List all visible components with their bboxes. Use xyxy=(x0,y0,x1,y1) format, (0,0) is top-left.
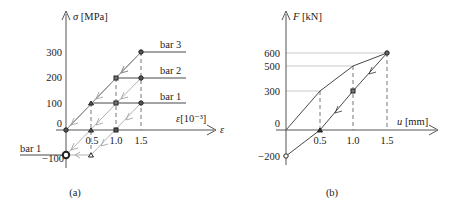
label-bar2: bar 2 xyxy=(160,65,181,76)
marker-circle xyxy=(139,101,143,105)
panel-b: F [kN] u [mm] 600 500 300 0 −200 0.5 1.0… xyxy=(258,11,438,199)
marker-circle-open xyxy=(284,154,288,158)
marker-origin xyxy=(64,128,68,132)
x-tick-0.5: 0.5 xyxy=(85,135,98,146)
y-tick-0: 0 xyxy=(57,118,62,129)
marker-square xyxy=(351,89,355,93)
y-tick-600: 600 xyxy=(264,48,280,59)
label-bar3: bar 3 xyxy=(160,39,181,50)
epsilon-axis-end-label: ε xyxy=(220,124,225,135)
marker-square xyxy=(114,128,118,132)
bar3-unload xyxy=(66,52,141,130)
y-tick-300: 300 xyxy=(264,86,280,97)
marker-circle xyxy=(385,51,389,55)
marker-circle xyxy=(139,76,143,80)
marker-circle-large xyxy=(63,152,69,158)
y-tick-500: 500 xyxy=(264,61,280,72)
caption-b: (b) xyxy=(326,187,339,199)
y-tick-200: 200 xyxy=(46,72,62,83)
x-tick-1.5: 1.5 xyxy=(380,135,393,146)
y-tick-0: 0 xyxy=(275,118,280,129)
bar2-unload xyxy=(66,78,141,155)
y-tick-100: 100 xyxy=(46,98,62,109)
markers-b xyxy=(284,51,389,158)
u-axis-label: u [mm] xyxy=(397,116,428,127)
x-tick-1.0: 1.0 xyxy=(109,135,122,146)
y-tick-300: 300 xyxy=(46,47,62,58)
sigma-axis-label: σ [MPa] xyxy=(73,11,108,22)
x-tick-0.5: 0.5 xyxy=(313,135,326,146)
panel-a: σ [MPa] ε[10⁻³] ε 300 200 100 0 −100 0.5… xyxy=(20,11,225,199)
x-tick-1.0: 1.0 xyxy=(346,135,359,146)
x-tick-1.5: 1.5 xyxy=(134,135,147,146)
y-tick-minus-200: −200 xyxy=(258,151,280,162)
loading-curve xyxy=(286,53,387,130)
marker-square xyxy=(114,76,118,80)
f-axis-label: F [kN] xyxy=(292,11,322,22)
label-bar1: bar 1 xyxy=(160,91,181,102)
unload-arrow-icons xyxy=(71,66,133,158)
label-bar1-compression: bar 1 xyxy=(20,143,41,154)
marker-square xyxy=(114,101,118,105)
marker-circle xyxy=(139,50,143,54)
marker-triangle xyxy=(89,128,94,132)
epsilon-axis-label: ε[10⁻³] xyxy=(176,113,206,124)
figure: σ [MPa] ε[10⁻³] ε 300 200 100 0 −100 0.5… xyxy=(0,0,456,208)
caption-a: (a) xyxy=(69,187,81,199)
